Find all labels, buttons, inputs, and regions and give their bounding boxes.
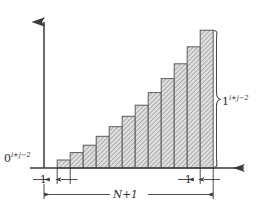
bar-9 xyxy=(161,79,174,168)
bar-7 xyxy=(135,105,148,168)
figure-container: 0i+j−2 1i+j−2 1 1 N+1 xyxy=(0,0,262,214)
bar-series xyxy=(57,30,213,168)
bar-5 xyxy=(109,127,122,168)
label-one-exponent: i+j−2 xyxy=(229,94,249,102)
label-zero-power: 0i+j−2 xyxy=(4,152,31,164)
bar-8 xyxy=(148,93,161,168)
label-total-span-base: N xyxy=(113,188,122,200)
bar-4 xyxy=(96,136,109,168)
label-total-span-operator: + xyxy=(122,188,131,200)
label-width-right: 1 xyxy=(185,174,192,185)
label-total-span: N+1 xyxy=(113,189,138,200)
label-total-span-term: 1 xyxy=(131,188,138,200)
bar-12 xyxy=(200,30,213,168)
label-one-base: 1 xyxy=(222,95,229,108)
label-zero-exponent: i+j−2 xyxy=(11,151,31,159)
bar-2 xyxy=(70,153,83,168)
bar-6 xyxy=(122,116,135,168)
label-width-left: 1 xyxy=(40,174,47,185)
bar-10 xyxy=(174,64,187,168)
bar-11 xyxy=(187,47,200,168)
height-brace xyxy=(214,31,221,168)
label-one-power: 1i+j−2 xyxy=(222,95,249,107)
label-zero-base: 0 xyxy=(4,152,11,165)
bar-1 xyxy=(57,160,70,168)
bar-3 xyxy=(83,145,96,168)
